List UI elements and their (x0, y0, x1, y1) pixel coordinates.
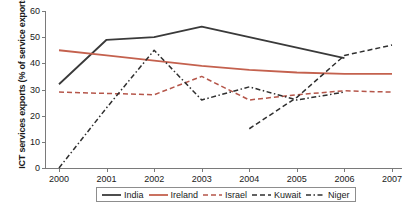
series-line-niger (59, 50, 344, 168)
x-tick-label: 2007 (382, 174, 402, 184)
x-tick-label: 2004 (239, 174, 259, 184)
x-tick-label: 2001 (97, 174, 117, 184)
legend-swatch-israel-icon (203, 191, 222, 199)
x-axis-line (45, 168, 402, 169)
legend-swatch-ireland-icon (149, 191, 168, 199)
y-tick-label: 40 (18, 58, 40, 68)
legend-swatch-kuwait-icon (252, 191, 271, 199)
x-tick-mark (297, 168, 298, 172)
legend-item-ireland[interactable]: Ireland (149, 190, 199, 200)
legend-item-niger[interactable]: Niger (306, 190, 350, 200)
legend-label: India (124, 190, 144, 200)
legend-swatch-niger-icon (306, 191, 325, 199)
y-tick-mark (42, 168, 45, 169)
x-tick-mark (249, 168, 250, 172)
y-tick-label: 20 (18, 111, 40, 121)
y-tick-label: 0 (18, 163, 40, 173)
legend-item-israel[interactable]: Israel (203, 190, 247, 200)
x-tick-label: 2003 (192, 174, 212, 184)
chart-legend[interactable]: IndiaIrelandIsraelKuwaitNiger (96, 187, 356, 202)
legend-item-india[interactable]: India (102, 190, 144, 200)
series-lines (45, 11, 402, 168)
legend-label: Israel (225, 190, 247, 200)
legend-label: Niger (328, 190, 350, 200)
y-tick-label: 10 (18, 137, 40, 147)
chart-container: ICT services exports (% of service expor… (0, 0, 412, 210)
x-tick-mark (154, 168, 155, 172)
x-tick-label: 2006 (334, 174, 354, 184)
x-tick-label: 2002 (144, 174, 164, 184)
y-tick-label: 60 (18, 6, 40, 16)
y-tick-label: 30 (18, 85, 40, 95)
plot-area: 0102030405060 20002001200220032004200520… (45, 11, 402, 168)
y-tick-label: 50 (18, 32, 40, 42)
x-tick-mark (392, 168, 393, 172)
legend-item-kuwait[interactable]: Kuwait (252, 190, 301, 200)
x-tick-mark (344, 168, 345, 172)
series-line-ireland (59, 50, 392, 74)
x-tick-label: 2005 (287, 174, 307, 184)
legend-label: Kuwait (274, 190, 301, 200)
x-tick-label: 2000 (49, 174, 69, 184)
legend-label: Ireland (171, 190, 199, 200)
series-line-kuwait (249, 45, 392, 129)
x-tick-mark (107, 168, 108, 172)
x-tick-mark (59, 168, 60, 172)
legend-swatch-india-icon (102, 191, 121, 199)
x-tick-mark (202, 168, 203, 172)
series-line-israel (59, 76, 392, 100)
